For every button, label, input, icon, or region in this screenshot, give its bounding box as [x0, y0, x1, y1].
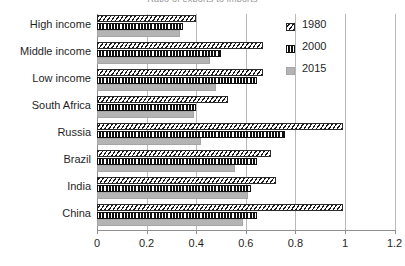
- bar-2000[interactable]: [97, 77, 257, 84]
- bar-2015[interactable]: [97, 111, 194, 118]
- legend-label: 1980: [302, 18, 326, 30]
- bar-2000[interactable]: [97, 131, 285, 138]
- category-label-brazil: Brazil: [0, 153, 91, 165]
- bar-chart: Ratio of exports to imports High incomeM…: [0, 0, 405, 266]
- category-label-south-africa: South Africa: [0, 99, 91, 111]
- category-label-high-income: High income: [0, 18, 91, 30]
- tick-0: [97, 230, 98, 234]
- bar-2000[interactable]: [97, 158, 257, 165]
- bar-2015[interactable]: [97, 84, 216, 91]
- bar-1980[interactable]: [97, 204, 343, 211]
- category-label-low-income: Low income: [0, 72, 91, 84]
- bar-1980[interactable]: [97, 150, 271, 157]
- bar-2000[interactable]: [97, 23, 183, 30]
- x-tick-label: 0: [77, 237, 117, 249]
- chart-row: South Africa: [0, 95, 405, 122]
- bar-group: [97, 95, 395, 122]
- legend-label: 2015: [302, 62, 326, 74]
- x-tick-label: 0.4: [176, 237, 216, 249]
- bar-group: [97, 122, 395, 149]
- legend-entry-2015[interactable]: 2015: [286, 62, 386, 84]
- bar-1980[interactable]: [97, 96, 228, 103]
- chart-legend: 198020002015: [286, 18, 386, 84]
- bar-2000[interactable]: [97, 212, 257, 219]
- x-tick-label: 0.6: [226, 237, 266, 249]
- tick-0.2: [147, 230, 148, 234]
- legend-swatch-icon-2000: [286, 45, 295, 53]
- tick-1: [345, 230, 346, 234]
- bar-2000[interactable]: [97, 104, 196, 111]
- x-tick-label: 0.2: [127, 237, 167, 249]
- tick-1.2: [395, 230, 396, 234]
- x-tick-label: 0.8: [275, 237, 315, 249]
- bar-2015[interactable]: [97, 219, 243, 226]
- chart-row: Russia: [0, 122, 405, 149]
- category-label-india: India: [0, 180, 91, 192]
- x-tick-label: 1: [325, 237, 365, 249]
- legend-entry-1980[interactable]: 1980: [286, 18, 386, 40]
- tick-0.6: [246, 230, 247, 234]
- bar-1980[interactable]: [97, 15, 196, 22]
- legend-entry-2000[interactable]: 2000: [286, 40, 386, 62]
- legend-swatch-icon-2015: [286, 67, 295, 75]
- bar-1980[interactable]: [97, 177, 276, 184]
- tick-0.8: [295, 230, 296, 234]
- bar-2015[interactable]: [97, 165, 235, 172]
- bar-1980[interactable]: [97, 69, 263, 76]
- chart-row: Brazil: [0, 149, 405, 176]
- bar-2015[interactable]: [97, 57, 210, 64]
- x-tick-label: 1.2: [375, 237, 405, 249]
- bar-group: [97, 203, 395, 230]
- bar-2000[interactable]: [97, 50, 221, 57]
- category-label-china: China: [0, 207, 91, 219]
- bar-2015[interactable]: [97, 138, 201, 145]
- bar-2000[interactable]: [97, 185, 251, 192]
- tick-0.4: [196, 230, 197, 234]
- bar-group: [97, 176, 395, 203]
- bar-group: [97, 149, 395, 176]
- chart-row: India: [0, 176, 405, 203]
- category-label-russia: Russia: [0, 126, 91, 138]
- bar-2015[interactable]: [97, 30, 180, 37]
- legend-swatch-icon-1980: [286, 23, 295, 31]
- chart-title: Ratio of exports to imports: [0, 0, 405, 2]
- legend-label: 2000: [302, 40, 326, 52]
- bar-1980[interactable]: [97, 123, 343, 130]
- chart-row: China: [0, 203, 405, 230]
- category-label-middle-income: Middle income: [0, 45, 91, 57]
- bar-2015[interactable]: [97, 192, 248, 199]
- bar-1980[interactable]: [97, 42, 263, 49]
